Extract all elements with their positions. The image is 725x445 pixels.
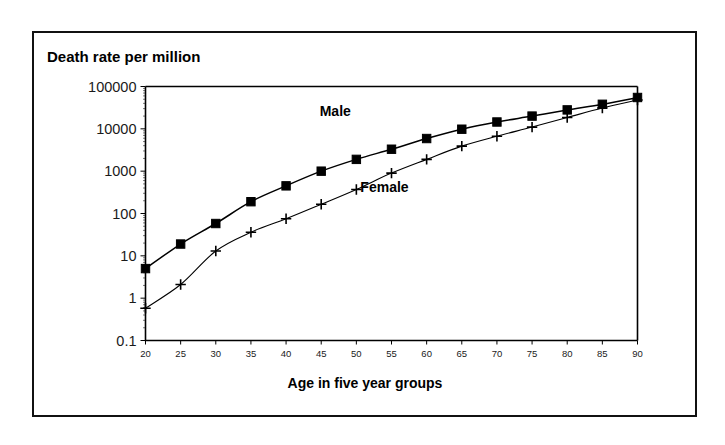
x-tick-label: 55 xyxy=(386,348,397,359)
death-rate-chart: Death rate per million 0.111010010001000… xyxy=(0,0,725,445)
chart-title: Death rate per million xyxy=(47,48,200,65)
data-point-marker xyxy=(281,214,291,224)
data-point-marker xyxy=(386,168,396,178)
x-tick-label: 60 xyxy=(421,348,432,359)
y-tick-label: 10000 xyxy=(96,121,136,137)
data-point-marker xyxy=(246,227,256,237)
data-point-marker xyxy=(527,122,537,132)
y-tick-label: 100 xyxy=(112,206,136,222)
x-tick-label: 20 xyxy=(140,348,151,359)
series-label-male: Male xyxy=(320,103,351,119)
x-tick-label: 80 xyxy=(562,348,573,359)
x-tick-label: 30 xyxy=(210,348,221,359)
x-tick-label: 25 xyxy=(175,348,186,359)
data-point-marker xyxy=(493,118,501,126)
data-point-marker xyxy=(317,167,325,175)
x-tick-label: 35 xyxy=(246,348,257,359)
x-tick-label: 70 xyxy=(492,348,503,359)
x-tick-label: 45 xyxy=(316,348,327,359)
x-tick-label: 50 xyxy=(351,348,362,359)
data-point-marker xyxy=(141,264,149,272)
series-line-female xyxy=(146,100,638,308)
data-point-marker xyxy=(421,154,431,164)
data-point-marker xyxy=(140,303,150,313)
data-point-marker xyxy=(492,131,502,141)
data-point-marker xyxy=(176,240,184,248)
y-tick-label: 0.1 xyxy=(116,333,136,349)
x-tick-label: 65 xyxy=(456,348,467,359)
data-point-marker xyxy=(458,125,466,133)
x-tick-label: 75 xyxy=(527,348,538,359)
data-point-marker xyxy=(212,219,220,227)
y-tick-label: 10 xyxy=(120,248,136,264)
series-label-female: Female xyxy=(360,179,408,195)
x-axis-title: Age in five year groups xyxy=(288,375,443,391)
data-point-marker xyxy=(528,112,536,120)
series-female xyxy=(140,95,642,314)
data-point-marker xyxy=(387,145,395,153)
x-tick-label: 40 xyxy=(281,348,292,359)
y-tick-label: 100000 xyxy=(88,79,136,95)
y-axis-ticks: 0.1110100100010000100000 xyxy=(88,79,145,349)
data-point-marker xyxy=(352,155,360,163)
data-point-marker xyxy=(282,182,290,190)
y-tick-label: 1000 xyxy=(104,163,136,179)
x-tick-label: 90 xyxy=(632,348,643,359)
plot-axis-frame xyxy=(146,87,638,341)
x-tick-label: 85 xyxy=(597,348,608,359)
data-point-marker xyxy=(457,141,467,151)
data-point-marker xyxy=(316,199,326,209)
data-point-marker xyxy=(422,134,430,142)
y-tick-label: 1 xyxy=(128,290,136,306)
data-series-group xyxy=(140,93,642,313)
data-point-marker xyxy=(247,198,255,206)
x-axis-ticks: 202530354045505560657075808590 xyxy=(140,341,643,359)
